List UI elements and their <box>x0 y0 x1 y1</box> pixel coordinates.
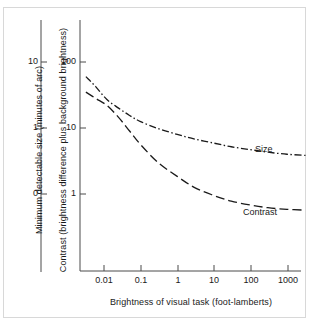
series-line-contrast <box>86 92 306 210</box>
x-axis-label-0.1: 0.1 <box>124 275 158 285</box>
x-axis-label-0.01: 0.01 <box>87 275 121 285</box>
figure-canvas: 10 1 0 100 10 1 0.01 0.1 1 10 100 1000 M… <box>0 0 311 325</box>
x-axis-title: Brightness of visual task (foot-lamberts… <box>80 297 302 307</box>
x-axis-label-10: 10 <box>197 275 231 285</box>
left-axis-title: Minimum detectable size (minutes of arc) <box>34 25 44 275</box>
x-axis-label-100: 100 <box>234 275 268 285</box>
x-axis-label-1: 1 <box>161 275 195 285</box>
series-line-size <box>86 77 306 156</box>
series-label-contrast: Contrast <box>243 207 277 217</box>
x-axis-label-1000: 1000 <box>271 275 305 285</box>
contrast-axis-title: Contrast (brightness difference plus bac… <box>58 25 68 275</box>
series-label-size: Size <box>255 144 273 154</box>
